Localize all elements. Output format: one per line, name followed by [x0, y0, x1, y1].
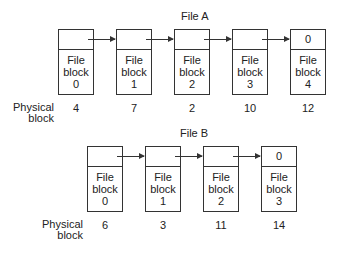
physical-block-number: 2 — [174, 102, 210, 114]
arrow-right-icon — [262, 39, 289, 40]
block-index: 4 — [291, 78, 325, 90]
physical-block-number: 14 — [261, 219, 297, 231]
next-pointer-field — [117, 30, 151, 50]
next-pointer-field — [204, 147, 238, 167]
next-pointer-field — [88, 147, 122, 167]
next-pointer-field: 0 — [262, 147, 296, 167]
physical-block-number: 12 — [290, 102, 326, 114]
block-label: File — [146, 171, 180, 183]
block-label: block — [291, 66, 325, 78]
block-label: File — [59, 54, 93, 66]
block-label: File — [117, 54, 151, 66]
physical-block-label: Physicalblock — [0, 102, 54, 124]
block-index: 0 — [59, 78, 93, 90]
next-pointer-field — [59, 30, 93, 50]
next-pointer-field: 0 — [291, 30, 325, 50]
file-a-block-4: 0 Fileblock4 — [290, 29, 326, 95]
block-label: block — [262, 183, 296, 195]
block-label: block — [117, 66, 151, 78]
file-a-title: File A — [181, 10, 209, 22]
arrow-right-icon — [204, 39, 231, 40]
block-label: File — [291, 54, 325, 66]
arrow-right-icon — [88, 39, 115, 40]
physical-block-label: Physicalblock — [23, 219, 83, 241]
physical-block-number: 3 — [145, 219, 181, 231]
block-index: 3 — [262, 195, 296, 207]
block-label: File — [88, 171, 122, 183]
arrow-right-icon — [175, 156, 202, 157]
block-index: 1 — [146, 195, 180, 207]
block-label: block — [88, 183, 122, 195]
physical-block-number: 11 — [203, 219, 239, 231]
block-label: block — [233, 66, 267, 78]
block-label: block — [146, 183, 180, 195]
block-index: 2 — [175, 78, 209, 90]
arrow-right-icon — [117, 156, 144, 157]
block-index: 2 — [204, 195, 238, 207]
block-label: File — [204, 171, 238, 183]
arrow-right-icon — [146, 39, 173, 40]
next-pointer-field — [175, 30, 209, 50]
block-label: File — [233, 54, 267, 66]
block-label: File — [175, 54, 209, 66]
physical-block-number: 6 — [87, 219, 123, 231]
block-label: block — [59, 66, 93, 78]
arrow-right-icon — [233, 156, 260, 157]
block-label: File — [262, 171, 296, 183]
next-pointer-field — [146, 147, 180, 167]
block-index: 3 — [233, 78, 267, 90]
physical-block-number: 4 — [58, 102, 94, 114]
block-label: block — [204, 183, 238, 195]
block-label: block — [175, 66, 209, 78]
physical-block-number: 7 — [116, 102, 152, 114]
next-pointer-field — [233, 30, 267, 50]
file-b-title: File B — [180, 127, 208, 139]
file-b-block-3: 0 Fileblock3 — [261, 146, 297, 212]
block-index: 0 — [88, 195, 122, 207]
physical-block-number: 10 — [232, 102, 268, 114]
block-index: 1 — [117, 78, 151, 90]
